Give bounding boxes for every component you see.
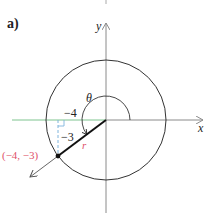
- part-label: a): [7, 16, 19, 32]
- y-axis-label: y: [95, 19, 102, 33]
- horizontal-leg-label: −4: [64, 106, 77, 120]
- x-axis-label: x: [197, 121, 204, 135]
- point-dot: [56, 154, 61, 159]
- point-label: (−4, −3): [2, 149, 39, 162]
- diagram-canvas: a) y x θ −4 −3 r (−4, −3): [0, 0, 212, 213]
- vertical-leg-label: −3: [61, 130, 74, 144]
- radius-label: r: [82, 139, 87, 151]
- right-angle-mark: [58, 120, 64, 126]
- theta-label: θ: [86, 91, 92, 105]
